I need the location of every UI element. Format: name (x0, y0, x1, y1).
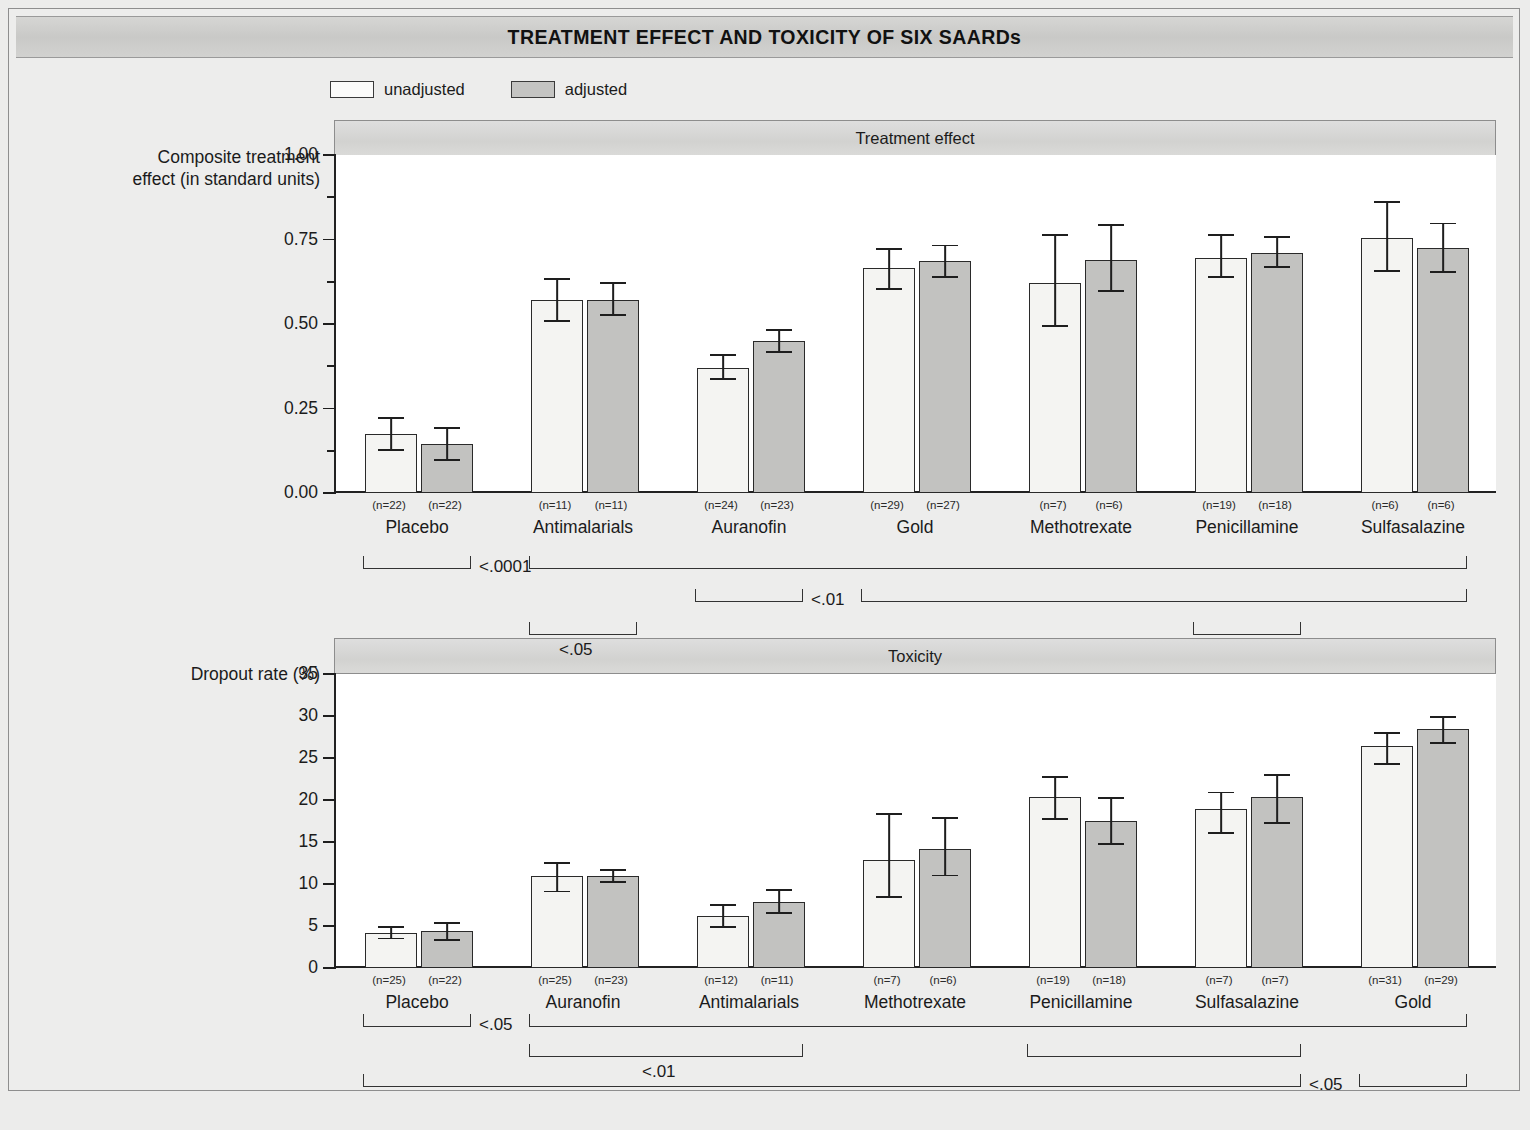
error-bar-stem (1054, 234, 1056, 327)
error-bar-cap-top (1208, 234, 1234, 236)
y-axis-tick-label: 10 (270, 873, 318, 894)
error-bar-cap-top (434, 922, 460, 924)
y-axis-tick-label: 25 (270, 747, 318, 768)
error-bar-cap-bottom (1430, 271, 1456, 273)
y-axis-tick-label: 0.50 (270, 313, 318, 334)
error-bar-cap-bottom (766, 912, 792, 914)
significance-bracket (1193, 622, 1301, 635)
error-bar (1417, 223, 1469, 274)
error-bar-stem (888, 248, 890, 290)
error-bar-cap-bottom (766, 351, 792, 353)
sample-size-label: (n=29) (1401, 974, 1481, 986)
error-bar-cap-bottom (1374, 270, 1400, 272)
bar-adjusted-auranofin (587, 876, 639, 968)
error-bar-stem (556, 862, 558, 892)
x-axis-group-label: Methotrexate (991, 517, 1171, 538)
bar-adjusted-sulfasalazine (1417, 248, 1469, 493)
error-bar-stem (1220, 792, 1222, 834)
bar-adjusted-antimalarials (587, 300, 639, 493)
x-axis-group-label: Sulfasalazine (1157, 992, 1337, 1013)
x-axis-group-label: Auranofin (493, 992, 673, 1013)
error-bar-cap-top (932, 817, 958, 819)
significance-p-label: <.05 (479, 1015, 513, 1035)
error-bar-stem (1276, 236, 1278, 268)
y-axis-tick-label: 20 (270, 789, 318, 810)
error-bar-stem (1442, 716, 1444, 744)
bar-unadjusted-auranofin (697, 368, 749, 493)
error-bar-cap-top (876, 248, 902, 250)
y-axis-tick (323, 492, 336, 494)
error-bar-stem (944, 817, 946, 877)
sample-size-label: (n=6) (903, 974, 983, 986)
error-bar-stem (722, 354, 724, 379)
error-bar-cap-top (600, 282, 626, 284)
y-axis-tick-label: 15 (270, 831, 318, 852)
y-axis-tick-label: 0.00 (270, 482, 318, 503)
y-axis-tick-label: 0.25 (270, 398, 318, 419)
error-bar-cap-bottom (544, 891, 570, 893)
y-axis-tick (323, 799, 336, 801)
sample-size-label: (n=6) (1401, 499, 1481, 511)
y-axis-tick (323, 673, 336, 675)
error-bar-cap-bottom (876, 288, 902, 290)
error-bar-cap-bottom (1042, 818, 1068, 820)
error-bar (421, 427, 473, 461)
significance-bracket (529, 556, 1467, 569)
y-axis-tick (323, 323, 336, 325)
error-bar-cap-top (544, 862, 570, 864)
error-bar (531, 862, 583, 892)
y-axis-tick (323, 967, 336, 969)
error-bar-cap-top (1430, 223, 1456, 225)
error-bar (1251, 774, 1303, 824)
error-bar-cap-top (876, 813, 902, 815)
significance-bracket (363, 1074, 1301, 1087)
error-bar (587, 282, 639, 316)
error-bar-stem (446, 427, 448, 461)
panel-header-toxicity: Toxicity (334, 638, 1496, 674)
y-axis-tick (323, 757, 336, 759)
error-bar-stem (1110, 797, 1112, 845)
panel-header-treatment-effect: Treatment effect (334, 120, 1496, 156)
error-bar-cap-top (378, 926, 404, 928)
error-bar-cap-top (544, 278, 570, 280)
legend-swatch-adjusted-icon (511, 81, 555, 98)
error-bar-stem (944, 245, 946, 279)
bar-unadjusted-penicillamine (1029, 797, 1081, 968)
error-bar-stem (1386, 201, 1388, 272)
error-bar (1029, 776, 1081, 821)
error-bar-cap-bottom (1264, 822, 1290, 824)
x-axis-group-label: Antimalarials (493, 517, 673, 538)
x-axis-group-label: Gold (825, 517, 1005, 538)
panel-treatment-effect: Treatment effect (334, 120, 1496, 530)
error-bar-cap-top (710, 904, 736, 906)
error-bar-cap-top (932, 245, 958, 247)
error-bar (753, 329, 805, 353)
error-bar (697, 904, 749, 928)
plot-area-toxicity (334, 674, 1496, 968)
error-bar-cap-top (1208, 792, 1234, 794)
error-bar-stem (1442, 223, 1444, 274)
sample-size-label: (n=11) (737, 974, 817, 986)
error-bar-cap-bottom (434, 459, 460, 461)
error-bar (1361, 732, 1413, 765)
error-bar-cap-bottom (932, 875, 958, 877)
error-bar-cap-top (766, 889, 792, 891)
y-axis-tick (323, 841, 336, 843)
error-bar (919, 817, 971, 877)
error-bar-stem (778, 889, 780, 914)
error-bar-stem (1386, 732, 1388, 765)
bar-unadjusted-antimalarials (531, 300, 583, 493)
bar-adjusted-gold (1417, 729, 1469, 968)
bar-unadjusted-gold (1361, 746, 1413, 968)
y-axis-tick-label: 0 (270, 957, 318, 978)
error-bar-cap-top (1374, 732, 1400, 734)
error-bar (531, 278, 583, 322)
error-bar-cap-bottom (710, 378, 736, 380)
x-axis-group-label: Antimalarials (659, 992, 839, 1013)
error-bar-cap-bottom (1208, 832, 1234, 834)
sample-size-label: (n=7) (1235, 974, 1315, 986)
error-bar (1029, 234, 1081, 327)
error-bar-cap-bottom (544, 320, 570, 322)
bar-unadjusted-penicillamine (1195, 258, 1247, 493)
error-bar (919, 245, 971, 279)
